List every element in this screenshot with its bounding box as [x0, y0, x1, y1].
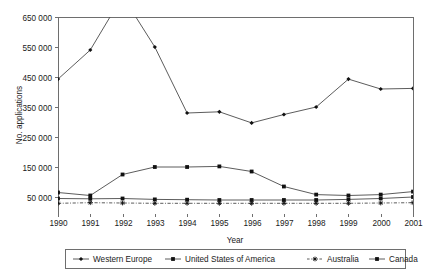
legend-label: Western Europe	[93, 255, 152, 264]
y-tick-label: 50 000	[27, 194, 52, 203]
y-tick-label: 350 000	[22, 104, 52, 113]
x-tick-label: 1991	[81, 219, 100, 228]
figure-background	[0, 0, 428, 279]
data-point-marker	[347, 198, 351, 202]
data-point-marker	[282, 198, 286, 202]
data-point-marker	[282, 185, 286, 189]
y-tick-label: 450 000	[22, 74, 52, 83]
x-tick-label: 1999	[339, 219, 358, 228]
line-chart-figure: 50 000150 000250 000350 000450 000550 00…	[0, 0, 428, 279]
data-point-marker	[121, 197, 125, 201]
data-point-marker	[250, 170, 254, 174]
x-tick-label: 2000	[372, 219, 391, 228]
data-point-marker	[153, 198, 157, 202]
legend-label: Canada	[389, 255, 418, 264]
data-point-marker	[185, 198, 189, 202]
x-axis-title: Year	[227, 236, 244, 245]
data-point-marker	[379, 193, 383, 197]
data-point-marker	[88, 197, 92, 201]
y-axis-title: No. applications	[15, 86, 24, 144]
data-point-marker	[217, 198, 221, 202]
data-point-marker	[313, 257, 318, 262]
data-point-marker	[171, 257, 175, 261]
x-tick-label: 1998	[307, 219, 326, 228]
x-tick-label: 1995	[210, 219, 229, 228]
x-tick-label: 1994	[178, 219, 197, 228]
data-point-marker	[346, 201, 351, 206]
data-point-marker	[250, 198, 254, 202]
x-tick-label: 1997	[275, 219, 294, 228]
x-tick-label: 2001	[404, 219, 423, 228]
legend-label: United States of America	[185, 255, 276, 264]
y-tick-label: 650 000	[22, 14, 52, 23]
data-point-marker	[185, 165, 189, 169]
data-point-marker	[152, 201, 157, 206]
data-point-marker	[314, 193, 318, 197]
data-point-marker	[185, 201, 190, 206]
data-point-marker	[217, 165, 221, 169]
data-point-marker	[375, 257, 379, 261]
x-tick-label: 1993	[146, 219, 165, 228]
data-point-marker	[120, 201, 125, 206]
data-point-marker	[379, 197, 383, 201]
x-tick-label: 1992	[114, 219, 133, 228]
chart-canvas: 50 000150 000250 000350 000450 000550 00…	[0, 0, 428, 279]
data-point-marker	[153, 165, 157, 169]
x-tick-label: 1990	[49, 219, 68, 228]
data-point-marker	[88, 194, 92, 198]
y-tick-label: 250 000	[22, 134, 52, 143]
x-tick-label: 1996	[243, 219, 262, 228]
data-point-marker	[121, 173, 125, 177]
data-point-marker	[378, 201, 383, 206]
legend-label: Australia	[327, 255, 359, 264]
chart-legend: Western EuropeUnited States of AmericaAu…	[66, 250, 419, 269]
data-point-marker	[88, 200, 93, 205]
data-point-marker	[314, 198, 318, 202]
y-tick-label: 150 000	[22, 164, 52, 173]
data-point-marker	[347, 194, 351, 198]
y-tick-label: 550 000	[22, 44, 52, 53]
